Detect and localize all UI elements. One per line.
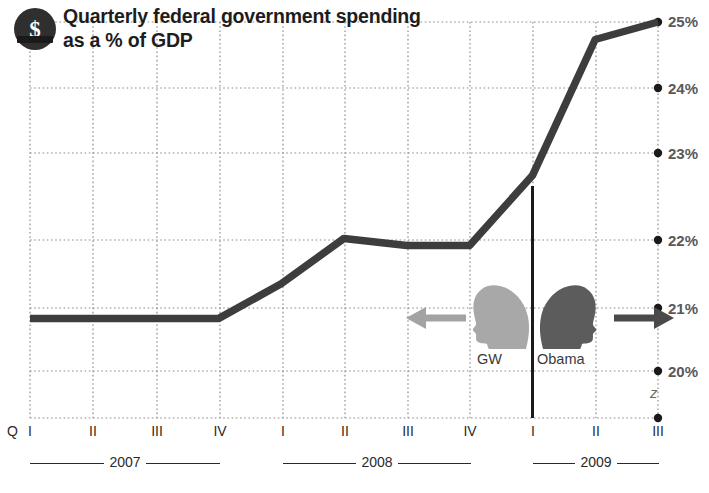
year-label-2009: 2009	[575, 455, 616, 469]
chart-plot-area	[0, 0, 709, 493]
x-tick-label-2007-q4: IV	[213, 424, 226, 438]
z-artifact-mark: z	[650, 385, 658, 400]
y-tick-label-23: 23%	[668, 146, 698, 161]
obama-head-silhouette-icon	[535, 279, 599, 351]
arrow-left-icon	[406, 305, 468, 331]
year-rule-right	[146, 463, 220, 464]
spending-series-line	[30, 22, 658, 319]
page-title: Quarterly federal government spending as…	[63, 4, 563, 52]
x-tick-label-2009-q3: III	[652, 424, 664, 438]
year-rule-left	[30, 463, 104, 464]
title-line-2: as a % of GDP	[63, 28, 563, 52]
chart-header: $ Quarterly federal government spending …	[0, 0, 709, 62]
gw-head-silhouette-icon	[470, 279, 532, 351]
year-label-2007: 2007	[104, 455, 145, 469]
x-tick-label-2008-q1: I	[281, 424, 285, 438]
chart-data-line	[0, 0, 709, 493]
year-rule-right	[617, 463, 659, 464]
year-rule-left	[533, 463, 575, 464]
y-tick-label-20: 20%	[668, 364, 698, 379]
y-tick-label-24: 24%	[668, 81, 698, 96]
year-bracket-2009: 2009	[533, 452, 659, 474]
year-rule-left	[283, 463, 356, 464]
title-line-1: Quarterly federal government spending	[63, 4, 563, 28]
x-tick-label-2008-q3: III	[402, 424, 414, 438]
x-tick-label-2008-q2: II	[341, 424, 349, 438]
year-bracket-2008: 2008	[283, 452, 471, 474]
year-rule-right	[398, 463, 471, 464]
year-bracket-2007: 2007	[30, 452, 220, 474]
badge-band-decoration	[14, 36, 56, 45]
x-axis-quarter-prefix: Q	[7, 424, 18, 438]
year-label-2008: 2008	[356, 455, 397, 469]
x-tick-label-2007-q2: II	[89, 424, 97, 438]
x-tick-label-2009-q1: I	[531, 424, 535, 438]
x-tick-label-2007-q3: III	[151, 424, 163, 438]
obama-annotation-label: Obama	[537, 352, 585, 367]
x-tick-label-2009-q2: II	[592, 424, 600, 438]
arrow-right-icon	[612, 305, 674, 331]
gw-annotation-label: GW	[477, 352, 502, 367]
y-tick-label-22: 22%	[668, 233, 698, 248]
x-tick-label-2007-q1: I	[28, 424, 32, 438]
x-tick-label-2008-q4: IV	[463, 424, 476, 438]
